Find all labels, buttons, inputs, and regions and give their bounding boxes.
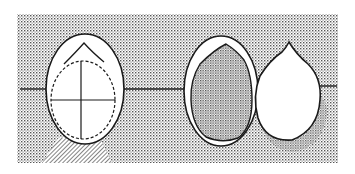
middle-egg bbox=[184, 36, 258, 146]
diagram-canvas bbox=[0, 0, 355, 174]
left-egg-shell bbox=[46, 34, 124, 144]
illustration bbox=[0, 0, 355, 174]
